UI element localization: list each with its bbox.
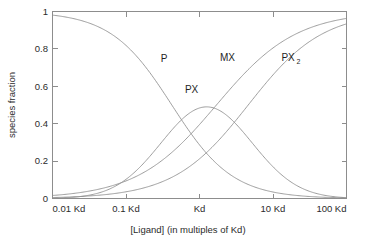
x-tick-label-1: 0.1 Kd bbox=[112, 203, 139, 214]
y-axis-title: species fraction bbox=[6, 72, 17, 138]
series-label-MX: MX bbox=[220, 52, 235, 63]
x-tick-label-0: 0.01 Kd bbox=[53, 203, 86, 214]
species-fraction-chart: 0 0.2 0.4 0.6 0.8 1 0.01 Kd 0.1 Kd Kd 10… bbox=[0, 0, 371, 247]
x-tick-marks bbox=[53, 12, 347, 199]
series-label-P: P bbox=[161, 53, 168, 64]
x-tick-label-4: 100 Kd bbox=[316, 203, 346, 214]
plot-frame bbox=[53, 12, 347, 199]
series-label-PX2: PX bbox=[281, 52, 295, 63]
series-label-PX: PX bbox=[185, 84, 199, 95]
curve-group bbox=[53, 15, 347, 198]
curve-PX2 bbox=[53, 24, 347, 198]
x-tick-labels: 0.01 Kd 0.1 Kd Kd 10 Kd 100 Kd bbox=[53, 203, 347, 214]
x-tick-label-2: Kd bbox=[194, 203, 206, 214]
y-tick-label-3: 0.6 bbox=[35, 81, 48, 92]
x-axis-title: [Ligand] (in multiples of Kd) bbox=[130, 224, 245, 235]
y-tick-labels: 0 0.2 0.4 0.6 0.8 1 bbox=[35, 6, 48, 204]
y-tick-label-0: 0 bbox=[43, 193, 48, 204]
y-tick-label-1: 0.2 bbox=[35, 155, 48, 166]
y-tick-label-4: 0.8 bbox=[35, 43, 48, 54]
y-tick-label-5: 1 bbox=[43, 6, 48, 17]
chart-figure: 0 0.2 0.4 0.6 0.8 1 0.01 Kd 0.1 Kd Kd 10… bbox=[0, 0, 371, 247]
y-tick-marks bbox=[53, 12, 347, 199]
curve-P bbox=[53, 15, 347, 198]
x-tick-label-3: 10 Kd bbox=[261, 203, 286, 214]
curve-PX bbox=[53, 107, 347, 198]
series-label-PX2-subscript: 2 bbox=[296, 58, 300, 65]
y-tick-label-2: 0.4 bbox=[35, 118, 48, 129]
curve-MX bbox=[53, 18, 347, 195]
